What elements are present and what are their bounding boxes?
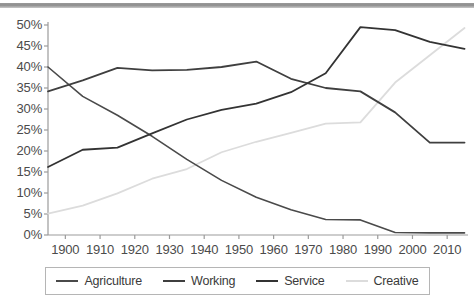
y-axis-tick-label: 40% [0, 59, 42, 74]
y-axis-tick-label: 0% [0, 227, 42, 242]
y-axis-tick-label: 10% [0, 185, 42, 200]
chart-legend: AgricultureWorkingServiceCreative [45, 267, 430, 295]
chart-plot-svg [0, 12, 474, 257]
y-axis-tick-label: 30% [0, 101, 42, 116]
legend-item-label: Service [284, 274, 324, 288]
legend-line-swatch-icon [256, 280, 278, 282]
legend-line-swatch-icon [346, 280, 368, 282]
y-axis-tick-label: 5% [0, 206, 42, 221]
series-line-creative [48, 28, 465, 214]
y-axis-tick-label: 25% [0, 122, 42, 137]
legend-item-label: Agriculture [84, 274, 142, 288]
y-axis-tick-label: 35% [0, 80, 42, 95]
legend-item-working[interactable]: Working [163, 274, 235, 288]
series-line-working [48, 62, 465, 143]
legend-line-swatch-icon [163, 280, 185, 282]
y-axis-tick-label: 20% [0, 143, 42, 158]
legend-item-creative[interactable]: Creative [346, 274, 419, 288]
y-axis-tick-label: 45% [0, 38, 42, 53]
series-line-service [48, 27, 465, 167]
legend-item-service[interactable]: Service [256, 274, 324, 288]
legend-line-swatch-icon [56, 280, 78, 282]
y-axis-tick-label: 15% [0, 164, 42, 179]
legend-item-label: Creative [374, 274, 419, 288]
legend-item-label: Working [191, 274, 235, 288]
legend-item-agriculture[interactable]: Agriculture [56, 274, 142, 288]
x-axis-tick-label: 2010 [425, 242, 469, 257]
series-line-agriculture [48, 67, 465, 233]
line-chart: 0%5%10%15%20%25%30%35%40%45%50% 19001910… [0, 12, 474, 257]
y-axis-tick-label: 50% [0, 17, 42, 32]
top-divider-bar [0, 3, 474, 8]
